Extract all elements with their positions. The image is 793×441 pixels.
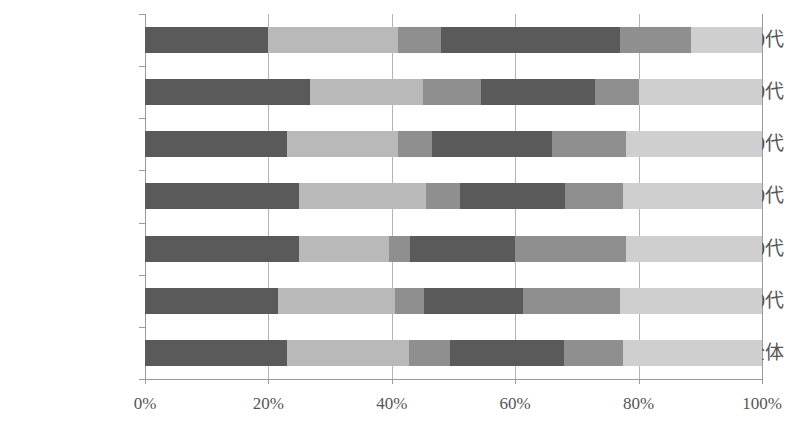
x-axis-tick-label: 80% — [623, 394, 654, 414]
x-axis-tick-label: 0% — [134, 394, 157, 414]
bar-segment-seg1 — [145, 27, 268, 53]
y-tick — [139, 379, 145, 380]
bar-segment-seg4 — [432, 131, 552, 157]
bar-row: 男20-30代 — [0, 275, 793, 327]
bar-segment-seg3 — [423, 79, 482, 105]
bar-segment-seg2 — [268, 27, 398, 53]
bar-segment-seg1 — [145, 288, 278, 314]
bar-row: 男60-70代 — [0, 66, 793, 118]
bar-segment-seg6 — [620, 288, 762, 314]
x-axis-tick-label: 100% — [742, 394, 782, 414]
bar-segment-seg3 — [426, 183, 460, 209]
bar-segment-seg2 — [299, 183, 425, 209]
bar-segment-seg3 — [398, 131, 432, 157]
bar-segment-seg3 — [398, 27, 441, 53]
bar-segment-seg4 — [441, 27, 620, 53]
bar-segment-seg1 — [145, 236, 299, 262]
stacked-bar — [145, 340, 762, 366]
bar-segment-seg5 — [552, 131, 626, 157]
bar-segment-seg6 — [623, 183, 762, 209]
bar-segment-seg2 — [287, 131, 398, 157]
bar-row: 女20-30代 — [0, 223, 793, 275]
bar-row: 女60-70代 — [0, 14, 793, 66]
bar-segment-seg6 — [691, 27, 762, 53]
bar-segment-seg4 — [481, 79, 595, 105]
bar-segment-seg1 — [145, 131, 287, 157]
stacked-bar — [145, 288, 762, 314]
bar-segment-seg1 — [145, 340, 287, 366]
bar-segment-seg5 — [515, 236, 626, 262]
bar-segment-seg5 — [565, 183, 624, 209]
bar-row: 全体 — [0, 327, 793, 379]
x-axis-line — [145, 379, 763, 380]
bar-segment-seg2 — [310, 79, 423, 105]
x-axis-tick-label: 40% — [376, 394, 407, 414]
bar-segment-seg4 — [460, 183, 565, 209]
stacked-bar — [145, 183, 762, 209]
bar-segment-seg4 — [410, 236, 515, 262]
stacked-bar — [145, 79, 762, 105]
stacked-bar — [145, 27, 762, 53]
bar-segment-seg6 — [626, 131, 762, 157]
bar-segment-seg2 — [278, 288, 395, 314]
bar-segment-seg5 — [595, 79, 638, 105]
bar-segment-seg2 — [287, 340, 409, 366]
bar-segment-seg1 — [145, 183, 299, 209]
bar-segment-seg4 — [450, 340, 564, 366]
bar-segment-seg6 — [626, 236, 762, 262]
bar-row: 男40-50代 — [0, 170, 793, 222]
bar-segment-seg6 — [639, 79, 762, 105]
stacked-bar — [145, 236, 762, 262]
bar-segment-seg5 — [620, 27, 691, 53]
stacked-bar-chart: 女60-70代男60-70代女40-50代男40-50代女20-30代男20-3… — [0, 0, 793, 441]
x-axis-tick-label: 60% — [500, 394, 531, 414]
stacked-bar — [145, 131, 762, 157]
bar-segment-seg3 — [409, 340, 450, 366]
bar-row: 女40-50代 — [0, 118, 793, 170]
bar-segment-seg1 — [145, 79, 310, 105]
bar-segment-seg6 — [623, 340, 762, 366]
x-axis-tick-label: 20% — [253, 394, 284, 414]
bar-segment-seg5 — [564, 340, 623, 366]
bar-segment-seg3 — [395, 288, 425, 314]
bar-segment-seg2 — [299, 236, 388, 262]
bar-segment-seg3 — [389, 236, 411, 262]
bar-segment-seg5 — [523, 288, 620, 314]
bar-segment-seg4 — [424, 288, 523, 314]
